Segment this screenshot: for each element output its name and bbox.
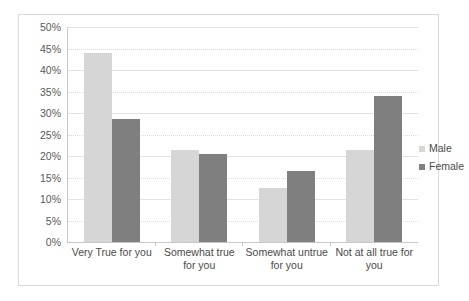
bar-group	[243, 27, 331, 242]
x-axis-tick-label: Not at all true for you	[331, 246, 419, 272]
bar-male[interactable]	[259, 188, 287, 242]
plot-area	[67, 27, 418, 243]
legend-swatch-icon	[419, 146, 425, 152]
y-axis-tick-label: 35%	[19, 87, 61, 97]
bar-group	[156, 27, 244, 242]
y-axis-tick-label: 45%	[19, 44, 61, 54]
legend-item-male[interactable]: Male	[419, 143, 469, 154]
y-axis-tick-label: 40%	[19, 65, 61, 75]
x-axis-tick-label: Somewhat untrue for you	[243, 246, 331, 272]
bar-group	[331, 27, 419, 242]
bar-female[interactable]	[112, 119, 140, 242]
chart-legend: MaleFemale	[419, 143, 469, 179]
legend-swatch-icon	[419, 164, 425, 170]
bar-female[interactable]	[287, 171, 315, 242]
legend-item-female[interactable]: Female	[419, 161, 469, 172]
bar-male[interactable]	[84, 53, 112, 242]
y-axis-tick-label: 5%	[19, 216, 61, 226]
plot-wrapper: 50%45%40%35%30%25%20%15%10%5%0% Very Tru…	[19, 15, 438, 285]
y-axis-tick-label: 30%	[19, 108, 61, 118]
bar-male[interactable]	[346, 150, 374, 242]
x-axis: Very True for youSomewhat true for youSo…	[68, 246, 418, 272]
y-axis-tick-label: 10%	[19, 194, 61, 204]
y-axis-tick-label: 50%	[19, 22, 61, 32]
legend-label: Female	[429, 161, 464, 172]
y-axis: 50%45%40%35%30%25%20%15%10%5%0%	[19, 27, 65, 242]
y-axis-tick-label: 25%	[19, 130, 61, 140]
x-axis-tick-label: Very True for you	[68, 246, 156, 272]
bar-female[interactable]	[199, 154, 227, 242]
y-axis-tick-label: 0%	[19, 237, 61, 247]
legend-label: Male	[429, 143, 452, 154]
x-axis-tick-label: Somewhat true for you	[156, 246, 244, 272]
y-axis-tick-label: 15%	[19, 173, 61, 183]
chart-container: 50%45%40%35%30%25%20%15%10%5%0% Very Tru…	[18, 14, 439, 286]
y-axis-tick-label: 20%	[19, 151, 61, 161]
bar-male[interactable]	[171, 150, 199, 242]
bar-group	[68, 27, 156, 242]
bar-female[interactable]	[374, 96, 402, 242]
bars-layer	[68, 27, 418, 242]
